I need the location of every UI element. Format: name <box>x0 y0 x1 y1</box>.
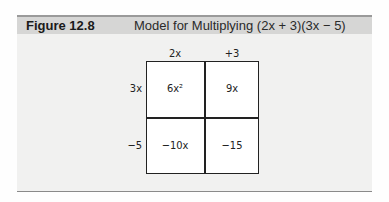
figure-label: Figure 12.8 <box>26 18 95 33</box>
figure-header: Figure 12.8 Model for Multiplying (2x + … <box>17 17 372 34</box>
cell-r1-c1: 6x² <box>147 82 203 95</box>
row-header-2: −5 <box>112 139 142 152</box>
bottom-rule <box>17 191 372 192</box>
cell-r1-c2: 9x <box>204 82 260 95</box>
cell-r2-c1: −10x <box>147 139 203 152</box>
row-header-1: 3x <box>112 82 142 95</box>
figure-title: Model for Multiplying (2x + 3)(3x − 5) <box>134 18 346 33</box>
column-header-2: +3 <box>204 47 260 60</box>
column-header-1: 2x <box>147 47 203 60</box>
cell-r2-c2: −15 <box>204 139 260 152</box>
grid-row-divider <box>146 117 259 119</box>
